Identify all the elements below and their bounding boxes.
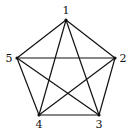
edge-4-5 <box>17 58 39 115</box>
vertex-label-1: 1 <box>63 4 70 17</box>
vertex-4 <box>37 113 40 116</box>
edge-2-4 <box>39 58 115 115</box>
edge-1-3 <box>66 20 99 115</box>
vertex-label-3: 3 <box>96 118 103 131</box>
edge-2-3 <box>99 58 115 115</box>
edge-1-2 <box>66 20 115 58</box>
complete-graph-diagram: 1 2 3 4 5 <box>0 0 132 133</box>
vertex-label-4: 4 <box>36 118 43 131</box>
vertex-label-2: 2 <box>120 52 127 65</box>
vertex-1 <box>64 18 67 21</box>
edge-1-5 <box>17 20 66 58</box>
vertex-labels: 1 2 3 4 5 <box>6 4 127 131</box>
vertex-2 <box>113 56 116 59</box>
vertex-3 <box>97 113 100 116</box>
vertex-label-5: 5 <box>6 52 13 65</box>
vertex-5 <box>15 56 18 59</box>
graph-edges <box>17 20 115 115</box>
edge-1-4 <box>39 20 66 115</box>
edge-3-5 <box>17 58 99 115</box>
